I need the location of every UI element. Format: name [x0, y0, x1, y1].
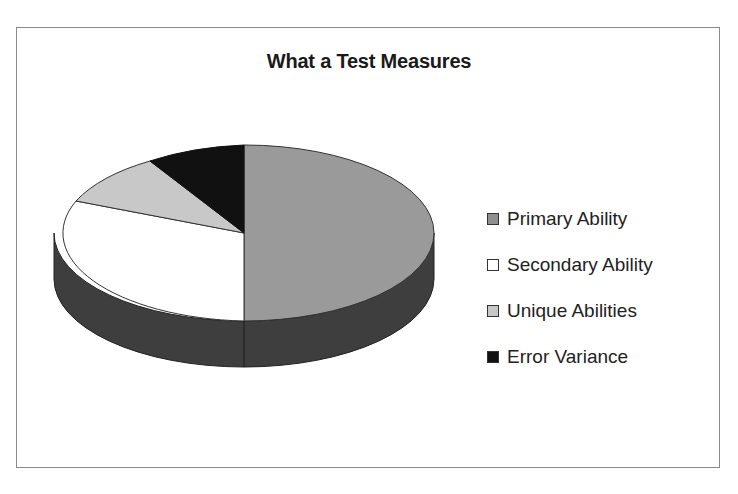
legend-item-error-variance[interactable]: Error Variance — [487, 334, 653, 380]
legend-item-primary-ability[interactable]: Primary Ability — [487, 196, 653, 242]
legend-swatch — [487, 305, 499, 317]
legend-swatch — [487, 351, 499, 363]
legend-label: Error Variance — [507, 346, 628, 368]
legend-label: Primary Ability — [507, 208, 627, 230]
legend-swatch — [487, 213, 499, 225]
legend-label: Unique Abilities — [507, 300, 637, 322]
legend-label: Secondary Ability — [507, 254, 653, 276]
legend-item-unique-abilities[interactable]: Unique Abilities — [487, 288, 653, 334]
legend-item-secondary-ability[interactable]: Secondary Ability — [487, 242, 653, 288]
legend-swatch — [487, 259, 499, 271]
legend: Primary Ability Secondary Ability Unique… — [487, 196, 653, 380]
